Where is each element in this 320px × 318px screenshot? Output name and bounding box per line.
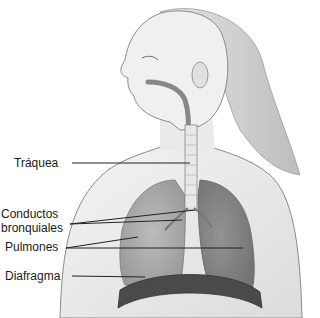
head [121, 11, 228, 130]
label-bronchi-line1: Conductos [1, 207, 58, 221]
respiratory-diagram: Tráquea Conductos bronquiales Pulmones D… [0, 0, 320, 318]
label-trachea: Tráquea [14, 156, 58, 170]
label-diaphragm: Diafragma [5, 269, 60, 283]
label-lungs: Pulmones [5, 240, 58, 254]
label-bronchi-line2: bronquiales [1, 221, 63, 235]
ear [192, 62, 208, 88]
trachea [185, 125, 197, 210]
